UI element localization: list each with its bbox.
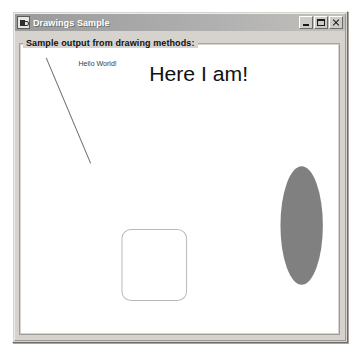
minimize-icon (303, 24, 309, 26)
title-bar[interactable]: Drawings Sample (15, 14, 345, 31)
drawing-surface: Hello World! Here I am! (22, 46, 337, 332)
window-content: Sample output from drawing methods: Hell… (15, 31, 345, 340)
titled-border-panel: Sample output from drawing methods: Hell… (19, 38, 340, 335)
here-i-am-text: Here I am! (149, 62, 248, 85)
application-window: Drawings Sample Sample output from drawi… (12, 11, 348, 343)
hello-world-text: Hello World! (79, 60, 117, 67)
panel-border-title: Sample output from drawing methods: (23, 38, 198, 48)
diagonal-line (46, 58, 90, 164)
rounded-rectangle (122, 229, 187, 300)
filled-ellipse (280, 166, 322, 284)
maximize-button[interactable] (314, 16, 328, 29)
window-title: Drawings Sample (33, 18, 299, 28)
drawing-canvas[interactable]: Hello World! Here I am! (22, 46, 337, 332)
minimize-button[interactable] (299, 16, 313, 29)
close-button[interactable] (329, 16, 343, 29)
window-controls (299, 16, 343, 29)
maximize-icon (317, 19, 325, 26)
java-app-icon (17, 16, 30, 29)
